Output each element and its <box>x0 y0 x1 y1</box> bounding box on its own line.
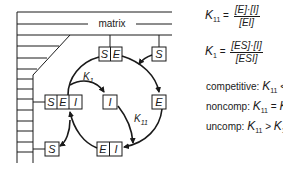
condition-uncompetitive: uncomp: K11 > K1 <box>206 120 283 137</box>
box-sei-s: S <box>47 96 55 108</box>
box-se-s: S <box>101 48 109 60</box>
fraction: [E]·[I] [EI] <box>234 4 260 29</box>
box-i-label: I <box>108 96 111 108</box>
box-sei-i: I <box>74 96 77 108</box>
matrix-label: matrix <box>98 18 125 29</box>
box-e-label: E <box>155 96 163 108</box>
box-s-top-label: S <box>155 48 163 60</box>
matrix-support <box>17 12 172 163</box>
fraction: [ES]·[I] [ESI] <box>230 40 263 65</box>
equation-k1: K1 = [ES]·[I] [ESI] <box>205 40 263 65</box>
equation-k11: K11 = [E]·[I] [EI] <box>205 4 260 29</box>
box-ei-i: I <box>114 143 117 155</box>
k11-arrow-label: K11 <box>134 113 148 126</box>
box-s-bottom-label: S <box>48 143 56 155</box>
condition-noncompetitive: noncomp: K11 = K1 <box>206 100 283 117</box>
box-ei-e: E <box>99 143 107 155</box>
box-sei-e: E <box>59 96 67 108</box>
box-se-e: E <box>113 48 121 60</box>
condition-competitive: competitive: K11 < K1 <box>206 80 283 97</box>
